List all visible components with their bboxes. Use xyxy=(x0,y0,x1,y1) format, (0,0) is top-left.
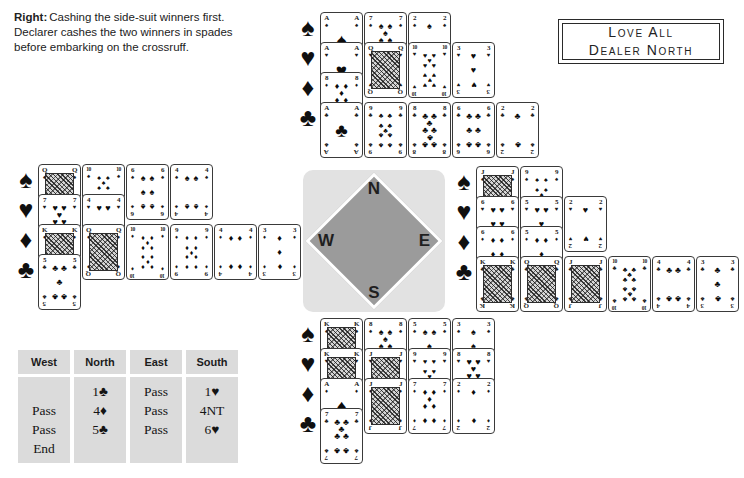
corner-rank: 3 xyxy=(454,45,463,52)
card-corner-index: 4♣ xyxy=(684,296,693,309)
card-corner-index: 3♣ xyxy=(728,259,737,272)
corner-rank: 2 xyxy=(528,105,537,112)
diamonds-pip-icon: ♦ xyxy=(484,388,493,394)
corner-rank: 8 xyxy=(396,321,405,328)
card-corner-index: 9♥ xyxy=(440,351,449,364)
card-corner-index: 4♥ xyxy=(114,197,123,210)
diamonds-pip-icon: ♦ xyxy=(141,244,145,251)
hearts-pip-icon: ♥ xyxy=(410,84,419,90)
card-corner-index: 2♠ xyxy=(410,15,419,28)
clubs-pip-icon: ♣ xyxy=(675,265,681,274)
card-corner-index: 9♣ xyxy=(366,105,375,118)
card-9-clubs: 9♣9♣9♣9♣♣♣♣♣♣♣♣♣♣ xyxy=(364,102,407,158)
diamonds-pip-icon: ♦ xyxy=(344,81,349,90)
diamonds-pip-icon: ♦ xyxy=(277,233,282,242)
card-6-spades: 6♠6♠6♠6♠♠♠♠♠♠♠ xyxy=(126,164,169,220)
clubs-pip-icon: ♣ xyxy=(623,295,628,302)
spades-pip-icon: ♠ xyxy=(366,22,375,28)
clubs-pip-icon: ♣ xyxy=(484,142,493,148)
hearts-pip-icon: ♥ xyxy=(490,205,495,214)
corner-rank: Q xyxy=(522,302,531,309)
card-corner-index: A♠ xyxy=(322,15,331,28)
clubs-pip-icon: ♣ xyxy=(610,298,619,304)
diamonds-suit-icon: ♦ xyxy=(452,226,476,256)
spades-suit-icon: ♠ xyxy=(296,12,320,42)
clubs-pip-icon: ♣ xyxy=(322,112,331,118)
compass-letter-east: E xyxy=(419,231,430,251)
card-corner-index: 8♥ xyxy=(454,351,463,364)
card-corner-index: 2♦ xyxy=(484,381,493,394)
corner-rank: 7 xyxy=(440,381,449,388)
card-corner-index: 10♦ xyxy=(158,266,167,278)
corner-rank: 9 xyxy=(202,270,211,277)
page: Right:Cashing the side-suit winners firs… xyxy=(0,0,744,478)
card-corner-index: 8♥ xyxy=(484,351,493,364)
west-clubs-row: ♣5♣5♣5♣5♣♣♣♣♣♣ xyxy=(14,254,82,310)
bidding-body: PassPassEnd1♣4♦5♣PassPassPass1♥4NT6♥ xyxy=(18,377,238,463)
corner-rank: 6 xyxy=(484,148,493,155)
corner-rank: J xyxy=(566,302,575,309)
clubs-pip-icon: ♣ xyxy=(396,112,405,118)
card-8-clubs: 8♣8♣8♣8♣♣♣♣♣♣♣♣♣ xyxy=(408,102,451,158)
hearts-pip-icon: ♥ xyxy=(410,358,419,364)
card-corner-index: 3♥ xyxy=(484,45,493,58)
diamonds-pip-icon: ♦ xyxy=(432,402,437,411)
hearts-pip-icon: ♥ xyxy=(84,204,93,210)
diamonds-pip-icon: ♦ xyxy=(322,388,331,394)
diamonds-pip-icon: ♦ xyxy=(277,262,282,271)
hearts-pip-icon: ♥ xyxy=(484,52,493,58)
clubs-pip-icon: ♣ xyxy=(684,266,693,272)
clubs-suit-icon: ♣ xyxy=(296,408,320,438)
card-corner-index: 3♥ xyxy=(484,82,493,95)
corner-rank: 4 xyxy=(84,197,93,204)
pip-area: ♣♣ xyxy=(507,111,528,149)
diamonds-pip-icon: ♦ xyxy=(440,418,449,424)
diamonds-pip-icon: ♦ xyxy=(128,233,137,239)
corner-rank: 8 xyxy=(352,75,361,82)
corner-rank: 4 xyxy=(246,270,255,277)
south-clubs-row: ♣7♣7♣7♣7♣♣♣♣♣♣♣♣ xyxy=(296,408,364,464)
spades-pip-icon: ♠ xyxy=(128,204,137,210)
card-corner-index: 4♠ xyxy=(172,204,181,217)
spades-pip-icon: ♠ xyxy=(158,174,167,180)
diamonds-pip-icon: ♦ xyxy=(172,264,181,270)
diamonds-pip-icon: ♦ xyxy=(544,235,549,244)
corner-rank: 2 xyxy=(596,242,605,249)
hearts-pip-icon: ♥ xyxy=(543,205,548,214)
card-Q-hearts: Q♥Q♥Q♥Q♥ xyxy=(364,42,407,98)
spades-pip-icon: ♠ xyxy=(484,328,493,334)
card-corner-index: 10♥ xyxy=(440,45,449,57)
diamonds-pip-icon: ♦ xyxy=(423,416,428,425)
card-corner-index: 7♠ xyxy=(396,15,405,28)
card-corner-index: 4♦ xyxy=(246,264,255,277)
corner-rank: 5 xyxy=(40,257,49,264)
diamonds-pip-icon: ♦ xyxy=(238,262,243,271)
corner-rank: 4 xyxy=(654,302,663,309)
hearts-pip-icon: ♥ xyxy=(522,206,531,212)
corner-rank: 3 xyxy=(290,227,299,234)
corner-rank: 8 xyxy=(322,75,331,82)
corner-rank: 2 xyxy=(454,381,463,388)
pip-area: ♦♦ xyxy=(463,387,484,425)
corner-rank: 9 xyxy=(396,148,405,155)
diamonds-pip-icon: ♦ xyxy=(260,264,269,270)
hearts-pip-icon: ♥ xyxy=(423,71,427,78)
spades-pip-icon: ♠ xyxy=(471,327,476,336)
spades-pip-icon: ♠ xyxy=(114,173,123,179)
clubs-pip-icon: ♣ xyxy=(396,142,405,148)
card-corner-index: 10♦ xyxy=(128,227,137,239)
clubs-pip-icon: ♣ xyxy=(475,140,481,149)
card-corner-index: 9♠ xyxy=(552,169,561,182)
corner-rank: Q xyxy=(396,88,405,95)
hearts-pip-icon: ♥ xyxy=(583,234,588,243)
corner-rank: 5 xyxy=(70,257,79,264)
pip-area: ♦♦♦♦♦♦♦ xyxy=(419,387,440,425)
corner-rank: 3 xyxy=(484,321,493,328)
clubs-pip-icon: ♣ xyxy=(388,131,393,138)
corner-rank: 6 xyxy=(158,210,167,217)
card-corner-index: 9♣ xyxy=(396,105,405,118)
card-corner-index: 8♣ xyxy=(410,105,419,118)
spades-pip-icon: ♠ xyxy=(158,204,167,210)
bid-cell xyxy=(18,382,70,401)
hearts-pip-icon: ♥ xyxy=(484,358,493,364)
